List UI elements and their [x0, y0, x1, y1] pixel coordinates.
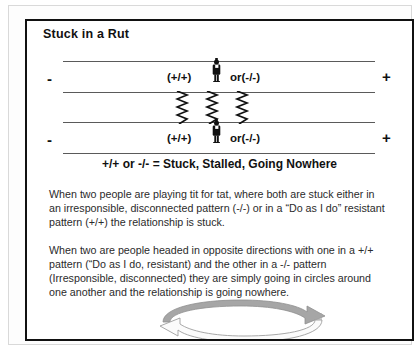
person-icon	[211, 58, 222, 82]
axis-bottom-plus-sign: +	[382, 130, 391, 145]
axis-top-negative-label: or(-/-)	[230, 72, 260, 84]
paragraph-two: When two are people headed in opposite d…	[49, 243, 389, 300]
axis-top-minus-sign: -	[47, 71, 52, 86]
page-title: Stuck in a Rut	[43, 27, 129, 41]
circular-arrow-loop-icon	[155, 297, 330, 341]
axis-bottom-negative-label: or(-/-)	[230, 133, 260, 145]
axis-bottom-minus-sign: -	[47, 132, 52, 147]
stuck-in-a-rut-diagram: - + (+/+) or(-/-)	[27, 47, 412, 172]
axis-top-positive-label: (+/+)	[167, 72, 191, 84]
axis-bottom-positive-label: (+/+)	[167, 133, 191, 145]
diagram-caption: +/+ or -/- = Stuck, Stalled, Going Nowhe…	[27, 157, 412, 171]
body-text: When two people are playing tit for tat,…	[49, 187, 389, 299]
axis-bottom-lower-rule	[63, 153, 375, 154]
scanned-page: Stuck in a Rut - + (+/+) or(-/-)	[0, 0, 419, 353]
axis-top-plus-sign: +	[382, 69, 391, 84]
slide-content-box: Stuck in a Rut - + (+/+) or(-/-)	[25, 19, 414, 341]
page-outer-frame: Stuck in a Rut - + (+/+) or(-/-)	[8, 5, 412, 345]
paragraph-one: When two people are playing tit for tat,…	[49, 187, 389, 230]
person-icon	[211, 119, 222, 143]
